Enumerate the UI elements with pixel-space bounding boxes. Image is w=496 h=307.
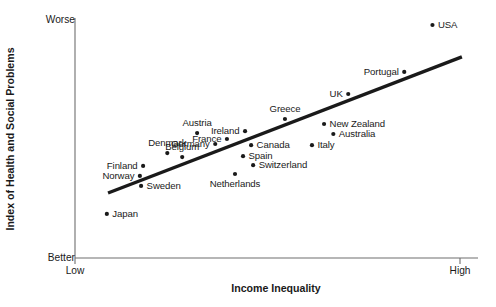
trendline-group bbox=[108, 57, 462, 193]
data-point-label: Finland bbox=[107, 161, 138, 171]
data-point-label: Canada bbox=[257, 140, 290, 150]
data-point-dot bbox=[233, 172, 237, 176]
data-point-label: Switzerland bbox=[259, 160, 308, 170]
trendline bbox=[108, 57, 462, 193]
data-point-label: Italy bbox=[317, 140, 334, 150]
data-point-label: Austria bbox=[183, 118, 212, 128]
y-axis-top-label: Worse bbox=[46, 15, 75, 25]
data-point-label: USA bbox=[438, 20, 457, 30]
data-point-dot bbox=[430, 23, 434, 27]
data-point-label: Australia bbox=[339, 129, 375, 139]
x-axis-low-label: Low bbox=[66, 266, 85, 276]
chart-figure: JapanSwedenNorwayFinlandDenmarkBelgiumAu… bbox=[0, 0, 496, 307]
x-axis-title: Income Inequality bbox=[231, 283, 320, 294]
y-axis-title: Index of Health and Social Problems bbox=[5, 47, 16, 230]
data-point-dot bbox=[310, 143, 314, 147]
data-point-dot bbox=[139, 184, 143, 188]
data-point-label: Ireland bbox=[211, 126, 240, 136]
data-point-dot bbox=[225, 137, 229, 141]
data-point-dot bbox=[402, 70, 406, 74]
data-point-dot bbox=[346, 92, 350, 96]
data-point-label: Norway bbox=[102, 171, 134, 181]
data-point-dot bbox=[241, 154, 245, 158]
data-point-dot bbox=[322, 122, 326, 126]
data-point-label: UK bbox=[330, 89, 343, 99]
data-point-dot bbox=[180, 155, 184, 159]
data-point-dot bbox=[251, 163, 255, 167]
data-point-label: Sweden bbox=[147, 181, 181, 191]
data-point-label: Greece bbox=[270, 104, 301, 114]
data-point-label: Netherlands bbox=[210, 179, 261, 189]
data-point-dot bbox=[249, 143, 253, 147]
data-point-label: Japan bbox=[112, 209, 138, 219]
data-point-dot bbox=[243, 129, 247, 133]
data-point-dot bbox=[331, 132, 335, 136]
data-point-dot bbox=[141, 164, 145, 168]
data-point-label: Portugal bbox=[364, 67, 399, 77]
data-point-dot bbox=[105, 212, 109, 216]
x-axis-high-label: High bbox=[450, 266, 471, 276]
data-point-dot bbox=[138, 174, 142, 178]
data-point-dot bbox=[283, 117, 287, 121]
y-axis-bottom-label: Better bbox=[48, 253, 75, 263]
